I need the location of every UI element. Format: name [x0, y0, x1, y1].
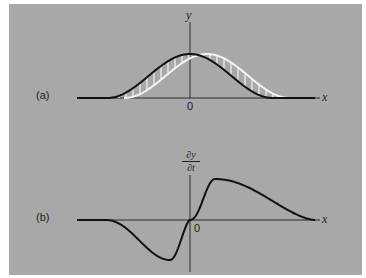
panel-b-y-axis-label: ∂y ∂t — [182, 150, 200, 173]
panel-b-origin-label: 0 — [194, 222, 200, 234]
panel-a-origin-label: 0 — [187, 100, 193, 112]
wave-pulse-figure — [0, 0, 366, 278]
panel-a-pulse-curve — [77, 54, 315, 98]
partial-t-denominator: ∂t — [182, 163, 200, 173]
panel-b-label: (b) — [36, 211, 49, 223]
panel-a-plot — [77, 22, 320, 98]
panel-a-label: (a) — [36, 89, 49, 101]
panel-a-y-axis-label: y — [186, 8, 191, 23]
panel-b-x-axis-label: x — [322, 212, 327, 227]
panel-a-x-axis-label: x — [322, 90, 327, 105]
partial-y-numerator: ∂y — [182, 150, 200, 160]
